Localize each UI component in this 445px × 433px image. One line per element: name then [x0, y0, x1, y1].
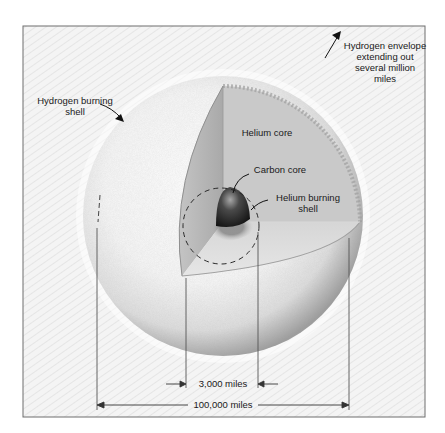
label-line: shell	[30, 106, 120, 117]
label-line: Hydrogen envelope	[330, 40, 440, 51]
label-line: Hydrogen burning	[30, 95, 120, 106]
label-carbon-core: Carbon core	[244, 164, 316, 175]
label-helium-burning-shell: Helium burning shell	[265, 192, 351, 214]
label-line: several million	[330, 62, 440, 73]
label-line: shell	[265, 203, 351, 214]
label-hydrogen-burning-shell: Hydrogen burning shell	[30, 95, 120, 117]
label-line: extending out	[330, 51, 440, 62]
label-dimension-outer: 100,000 miles	[188, 399, 258, 410]
label-line: Helium burning	[265, 192, 351, 203]
label-hydrogen-envelope: Hydrogen envelope extending out several …	[330, 40, 440, 84]
label-helium-core: Helium core	[232, 127, 302, 138]
label-dimension-inner: 3,000 miles	[190, 378, 256, 389]
label-line: miles	[330, 73, 440, 84]
